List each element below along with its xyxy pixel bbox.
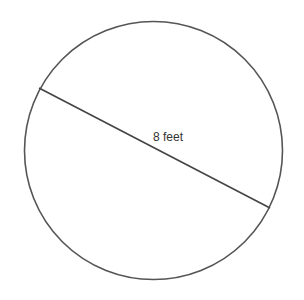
circle — [25, 22, 283, 280]
circle-diagram: 8 feet — [0, 0, 304, 300]
diameter-line — [39, 88, 270, 208]
diameter-label: 8 feet — [153, 130, 184, 144]
